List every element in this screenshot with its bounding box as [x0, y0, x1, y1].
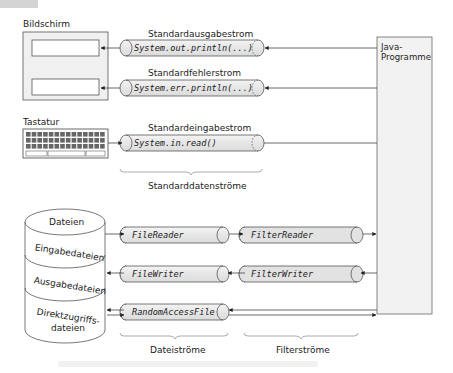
filereader-code: FileReader	[132, 230, 185, 240]
filewriter-cylinder: FileWriter	[120, 266, 229, 282]
stderr-code: System.err.println(...)	[134, 83, 253, 93]
keyboard-title: Tastatur	[22, 117, 59, 127]
corner-tab	[0, 0, 38, 8]
keyboard-icon: Tastatur	[22, 117, 108, 158]
stderr-title: Standardfehlerstrom	[148, 68, 241, 78]
cropped-caption-remnant	[58, 361, 318, 367]
stdout-title: Standardausgabestrom	[148, 29, 253, 39]
filereader-cylinder: FileReader	[120, 227, 229, 243]
filterwriter-code: FilterWriter	[251, 269, 314, 279]
screen-title: Bildschirm	[23, 19, 70, 29]
stderr-stream-cylinder: System.err.println(...)	[120, 80, 264, 96]
stdout-stream-cylinder: System.out.println(...)	[120, 40, 264, 56]
randomaccessfile-code: RandomAccessFile	[132, 307, 215, 317]
stdin-code: System.in.read()	[134, 138, 217, 148]
filterreader-code: FilterReader	[251, 230, 314, 240]
filterreader-cylinder: FilterReader	[239, 227, 363, 243]
screen-device: Bildschirm	[23, 19, 108, 100]
db-top-label: Dateien	[49, 217, 84, 227]
filewriter-code: FileWriter	[132, 269, 185, 279]
java-programs-box: Java- Programme	[377, 37, 432, 314]
files-database-icon: Dateien Eingabedateien Ausgabedateien Di…	[25, 209, 107, 343]
java-label-1: Java-	[380, 42, 402, 52]
java-label-2: Programme	[381, 52, 431, 62]
standard-streams-label: Standarddatenströme	[148, 181, 247, 191]
file-streams-brace	[120, 333, 228, 339]
filter-streams-label: Filterströme	[276, 345, 330, 355]
java-io-streams-diagram: Bildschirm Tastatur Java- Programme Stan…	[0, 0, 453, 373]
stdout-code: System.out.println(...)	[134, 43, 253, 53]
randomaccessfile-cylinder: RandomAccessFile	[120, 304, 229, 320]
file-streams-label: Dateiströme	[150, 345, 206, 355]
stdout-window	[32, 40, 99, 56]
standard-streams-brace	[120, 169, 262, 175]
db-random-label-2: dateien	[51, 323, 85, 333]
filter-streams-brace	[244, 333, 358, 339]
filterwriter-cylinder: FilterWriter	[239, 266, 363, 282]
stderr-window	[32, 79, 99, 95]
stdin-title: Standardeingabestrom	[148, 123, 251, 133]
stdin-stream-cylinder: System.in.read()	[120, 135, 264, 151]
